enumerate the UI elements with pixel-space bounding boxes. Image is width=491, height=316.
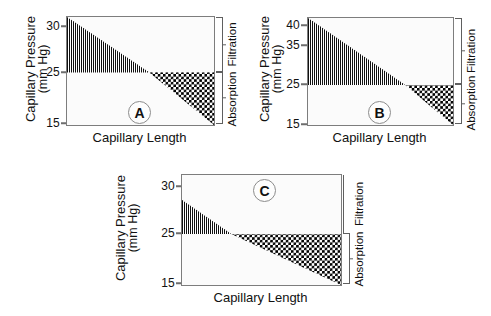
panel-c-absorption-label: Absorption — [353, 228, 365, 290]
panel-c-ytick-label: 25 — [153, 226, 175, 240]
panel-c-letter: C — [253, 179, 276, 202]
panel-a-letter: A — [128, 101, 151, 124]
panel-b-ytick-label: 40 — [278, 18, 300, 32]
panel-a-filtration-label: Filtration — [226, 17, 238, 72]
panel-b-absorption-bracket — [455, 84, 462, 124]
panel-c-filtration-label: Filtration — [353, 175, 365, 233]
panel-b-ytick-label: 25 — [278, 77, 300, 91]
panel-c-ytick-label: 15 — [153, 276, 175, 290]
panel-b-ytick-label: 35 — [278, 38, 300, 52]
panel-c-x-axis-title: Capillary Length — [181, 290, 340, 305]
panel-b-filtration-bracket — [455, 18, 462, 84]
panel-b-letter: B — [368, 101, 391, 124]
panel-a-filtration-bracket — [216, 17, 223, 72]
panel-c-ytick-label: 30 — [153, 179, 175, 193]
panel-b-ytick-label: 15 — [278, 117, 300, 131]
panel-a-ytick-label: 25 — [38, 65, 60, 79]
figure-capillary-pressure: { "figure": { "shared": { "ylabel_line1"… — [0, 0, 491, 316]
panel-a-ytick-label: 15 — [38, 116, 60, 130]
panel-c-y-axis-title: Capillary Pressure (mm Hg) — [114, 168, 140, 288]
panel-c-filtration-divider — [343, 175, 344, 233]
panel-a-absorption-bracket — [216, 72, 223, 124]
panel-b-absorption-label: Absorption — [465, 72, 477, 134]
panel-b-x-axis-title: Capillary Length — [307, 130, 452, 145]
panel-a-ytick-label: 30 — [38, 19, 60, 33]
panel-a-x-axis-title: Capillary Length — [66, 130, 213, 145]
panel-c-absorption-bracket — [343, 233, 350, 284]
panel-a-absorption-label: Absorption — [226, 70, 238, 128]
